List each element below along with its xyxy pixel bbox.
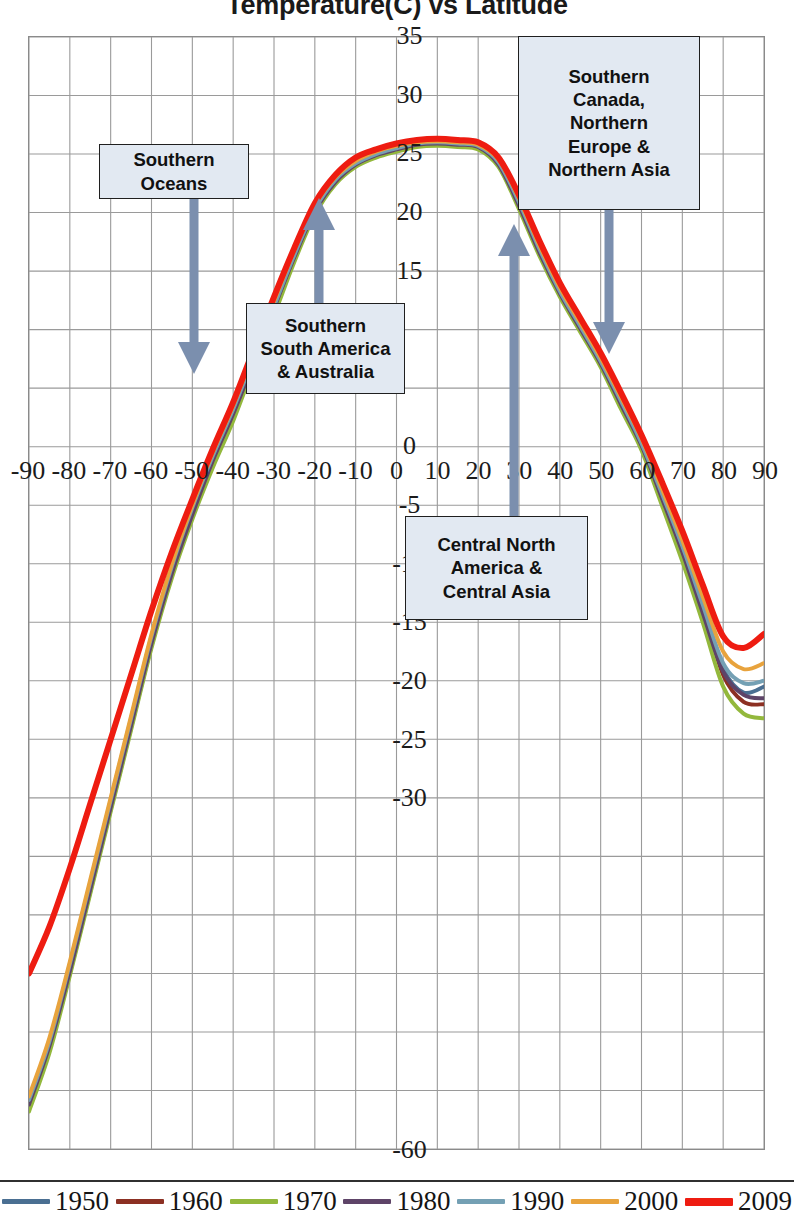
legend-item-1950[interactable]: 1950 — [2, 1188, 109, 1215]
y-axis-tick-label: 35 — [375, 21, 445, 51]
x-axis-tick-label: 10 — [415, 456, 459, 486]
legend-label-1950: 1950 — [55, 1188, 109, 1215]
y-axis-tick-label: -60 — [375, 1135, 445, 1165]
legend-swatch-1990 — [457, 1199, 505, 1204]
x-axis-tick-label: -60 — [129, 456, 173, 486]
arrow-southern-oceans — [174, 196, 214, 376]
callout-line: Central Asia — [443, 580, 550, 603]
y-axis-tick-label: 15 — [375, 256, 445, 286]
x-axis-tick-label: 0 — [375, 456, 419, 486]
callout-southern-canada-northern-europe-asia: Southern Canada, Northern Europe & North… — [518, 36, 700, 210]
page-title: Temperature(C) vs Latitude — [0, 0, 794, 21]
x-axis-tick-label: -90 — [6, 456, 50, 486]
x-axis-tick-label: 60 — [620, 456, 664, 486]
x-axis-tick-label: -30 — [252, 456, 296, 486]
legend-swatch-1970 — [230, 1199, 278, 1204]
legend-item-1990[interactable]: 1990 — [457, 1188, 564, 1215]
arrow-southern-canada-northern-europe-asia — [589, 210, 629, 355]
legend-label-1970: 1970 — [283, 1188, 337, 1215]
callout-southern-oceans: Southern Oceans — [99, 144, 249, 199]
x-axis-tick-label: -10 — [334, 456, 378, 486]
arrow-central-north-america-central-asia — [494, 222, 534, 518]
x-axis-tick-label: -70 — [88, 456, 132, 486]
legend-item-2009[interactable]: 2009 — [685, 1188, 792, 1215]
legend-swatch-1980 — [343, 1199, 391, 1204]
callout-line: South America — [261, 337, 391, 360]
callout-line: Northern — [570, 111, 648, 134]
y-axis-tick-label: -20 — [375, 666, 445, 696]
legend-label-2009: 2009 — [738, 1188, 792, 1215]
legend-item-2000[interactable]: 2000 — [571, 1188, 678, 1215]
x-axis-tick-label: 50 — [579, 456, 623, 486]
callout-line: Canada, — [573, 88, 645, 111]
legend-swatch-1950 — [2, 1199, 50, 1204]
legend-item-1960[interactable]: 1960 — [116, 1188, 223, 1215]
callout-line: & Australia — [277, 360, 374, 383]
legend-label-2000: 2000 — [624, 1188, 678, 1215]
chart-legend: 1950196019701980199020002009 — [0, 1180, 794, 1221]
callout-line: Oceans — [141, 172, 208, 195]
legend-swatch-2009 — [685, 1198, 733, 1206]
callout-southern-south-america-australia: Southern South America & Australia — [246, 303, 405, 394]
legend-label-1960: 1960 — [169, 1188, 223, 1215]
y-axis-tick-label: -25 — [375, 725, 445, 755]
x-axis-tick-label: -20 — [293, 456, 337, 486]
x-axis-tick-label: -40 — [211, 456, 255, 486]
callout-line: Central North — [437, 533, 555, 556]
y-axis-tick-label: -30 — [375, 783, 445, 813]
x-axis-tick-label: 40 — [538, 456, 582, 486]
arrow-southern-south-america-australia — [299, 196, 339, 314]
y-axis-tick-label: 25 — [375, 138, 445, 168]
legend-item-1980[interactable]: 1980 — [343, 1188, 450, 1215]
x-axis-tick-label: 90 — [743, 456, 787, 486]
legend-label-1980: 1980 — [396, 1188, 450, 1215]
legend-label-1990: 1990 — [510, 1188, 564, 1215]
x-axis-tick-label: 80 — [702, 456, 746, 486]
callout-central-north-america-central-asia: Central North America & Central Asia — [405, 516, 588, 620]
y-axis-tick-label: 20 — [375, 197, 445, 227]
legend-item-1970[interactable]: 1970 — [230, 1188, 337, 1215]
callout-line: Southern — [133, 148, 214, 171]
x-axis-tick-label: -50 — [170, 456, 214, 486]
callout-line: Southern — [285, 314, 366, 337]
callout-line: Europe & — [568, 135, 650, 158]
callout-line: Northern Asia — [548, 158, 670, 181]
callout-line: Southern — [568, 65, 649, 88]
callout-line: America & — [451, 556, 543, 579]
legend-swatch-2000 — [571, 1199, 619, 1204]
x-axis-tick-label: 70 — [661, 456, 705, 486]
y-axis-tick-label: 30 — [375, 80, 445, 110]
legend-swatch-1960 — [116, 1199, 164, 1204]
x-axis-tick-label: -80 — [47, 456, 91, 486]
